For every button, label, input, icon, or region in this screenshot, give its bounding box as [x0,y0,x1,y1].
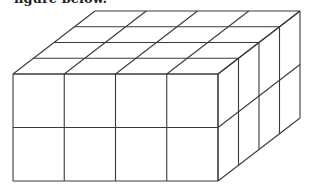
cube-prism-diagram [0,0,312,193]
